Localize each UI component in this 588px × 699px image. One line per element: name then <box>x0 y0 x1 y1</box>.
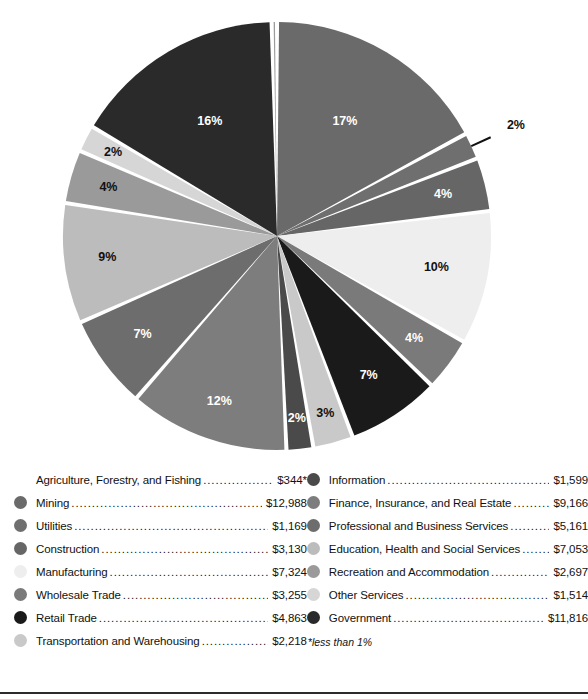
legend-item-label: Construction <box>36 543 99 555</box>
legend-leader-dots <box>110 565 269 578</box>
legend-item-label: Other Services <box>329 589 404 601</box>
pie-slice-percent-label: 4% <box>99 180 117 194</box>
legend-item[interactable]: Finance, Insurance, and Real Estate$9,16… <box>307 491 588 514</box>
pie-slice-percent-label: 2% <box>507 118 525 132</box>
legend-item-value: $4,863 <box>270 612 307 624</box>
legend-leader-dots <box>522 542 549 555</box>
pie-slice-percent-label: 7% <box>360 368 378 382</box>
legend-item-label: Finance, Insurance, and Real Estate <box>329 497 512 509</box>
legend-item-label: Retail Trade <box>36 612 97 624</box>
legend-item-value: $3,255 <box>270 589 307 601</box>
legend-item-value: $5,161 <box>551 520 588 532</box>
legend-leader-dots <box>203 473 273 486</box>
legend-leader-dots <box>71 496 262 509</box>
legend-item-label: Transportation and Warehousing <box>36 635 200 647</box>
legend-item-label: Agriculture, Forestry, and Fishing <box>36 474 201 486</box>
legend-swatch-icon <box>14 588 27 601</box>
legend-footnote: *less than 1% <box>308 636 588 648</box>
pie-slice-percent-label: 7% <box>134 327 152 341</box>
legend-item[interactable]: Construction$3,130 <box>14 537 307 560</box>
legend-item[interactable]: Other Services$1,514 <box>307 583 588 606</box>
legend-item-value: $9,166 <box>551 497 588 509</box>
legend-swatch-icon <box>307 611 320 624</box>
pie-slice-percent-label: 17% <box>332 114 357 128</box>
legend-swatch-icon <box>307 473 320 486</box>
legend-leader-dots <box>202 634 269 647</box>
pie-slice-percent-label: 10% <box>424 260 449 274</box>
chart-legend: Agriculture, Forestry, and Fishing$344*M… <box>0 468 588 678</box>
legend-item[interactable]: Education, Health and Social Services$7,… <box>307 537 588 560</box>
legend-item-value: $2,697 <box>551 566 588 578</box>
legend-item-label: Mining <box>36 497 69 509</box>
legend-item-value: $11,816 <box>546 612 588 624</box>
pie-slice-percent-label: 4% <box>434 187 452 201</box>
pie-slice-percent-label: 16% <box>197 114 222 128</box>
legend-swatch-icon <box>307 542 320 555</box>
legend-swatch-icon <box>307 588 320 601</box>
pie-slice-percent-label: 2% <box>104 145 122 159</box>
pie-slice-percent-label: 9% <box>98 250 116 264</box>
legend-leader-dots <box>491 565 549 578</box>
legend-leader-dots <box>387 473 549 486</box>
legend-swatch-icon <box>14 473 27 486</box>
legend-leader-dots <box>393 611 544 624</box>
pie-slice-percent-label: 12% <box>207 394 232 408</box>
legend-swatch-icon <box>307 496 320 509</box>
legend-item-label: Utilities <box>36 520 72 532</box>
legend-swatch-icon <box>14 565 27 578</box>
legend-item[interactable]: Transportation and Warehousing$2,218 <box>14 629 307 652</box>
legend-item-label: Education, Health and Social Services <box>329 543 520 555</box>
pie-chart-svg: 17%2%4%10%4%7%3%2%12%7%9%4%2%16% <box>0 0 588 460</box>
legend-swatch-icon <box>307 519 320 532</box>
legend-item[interactable]: Utilities$1,169 <box>14 514 307 537</box>
legend-column-left: Agriculture, Forestry, and Fishing$344*M… <box>0 468 307 678</box>
legend-leader-dots <box>513 496 549 509</box>
legend-swatch-icon <box>307 565 320 578</box>
legend-leader-dots <box>99 611 268 624</box>
legend-item[interactable]: Information$1,599 <box>307 468 588 491</box>
legend-leader-dots <box>101 542 268 555</box>
legend-item-label: Manufacturing <box>36 566 108 578</box>
slice-leader-line <box>471 137 490 146</box>
legend-item[interactable]: Recreation and Accommodation$2,697 <box>307 560 588 583</box>
legend-item[interactable]: Wholesale Trade$3,255 <box>14 583 307 606</box>
pie-slice-percent-label: 4% <box>405 331 423 345</box>
legend-item[interactable]: Retail Trade$4,863 <box>14 606 307 629</box>
legend-item[interactable]: Agriculture, Forestry, and Fishing$344* <box>14 468 307 491</box>
legend-item-value: $1,514 <box>551 589 588 601</box>
legend-item-value: $12,988 <box>264 497 307 509</box>
legend-item-value: $344* <box>275 474 307 486</box>
legend-item-label: Information <box>329 474 385 486</box>
legend-item[interactable]: Government$11,816 <box>307 606 588 629</box>
pie-chart-figure: 17%2%4%10%4%7%3%2%12%7%9%4%2%16% <box>0 0 588 460</box>
legend-item-label: Professional and Business Services <box>329 520 508 532</box>
legend-item-label: Wholesale Trade <box>36 589 121 601</box>
legend-swatch-icon <box>14 519 27 532</box>
legend-item-label: Recreation and Accommodation <box>329 566 489 578</box>
legend-column-right: Information$1,599Finance, Insurance, and… <box>307 468 588 678</box>
legend-leader-dots <box>510 519 549 532</box>
pie-chart-page: 17%2%4%10%4%7%3%2%12%7%9%4%2%16% Agricul… <box>0 0 588 699</box>
legend-item-label: Government <box>329 612 391 624</box>
legend-leader-dots <box>406 588 550 601</box>
legend-leader-dots <box>74 519 268 532</box>
legend-swatch-icon <box>14 611 27 624</box>
legend-item-value: $1,599 <box>551 474 588 486</box>
pie-slice-percent-label: 3% <box>316 406 334 420</box>
legend-swatch-icon <box>14 634 27 647</box>
legend-swatch-icon <box>14 496 27 509</box>
bottom-divider <box>0 692 588 694</box>
legend-item-value: $7,053 <box>551 543 588 555</box>
legend-item-value: $3,130 <box>270 543 307 555</box>
legend-item[interactable]: Manufacturing$7,324 <box>14 560 307 583</box>
legend-item[interactable]: Professional and Business Services$5,161 <box>307 514 588 537</box>
legend-item-value: $1,169 <box>270 520 307 532</box>
legend-item-value: $7,324 <box>270 566 307 578</box>
legend-leader-dots <box>123 588 268 601</box>
legend-item[interactable]: Mining$12,988 <box>14 491 307 514</box>
legend-swatch-icon <box>14 542 27 555</box>
legend-item-value: $2,218 <box>270 635 307 647</box>
pie-slice-percent-label: 2% <box>288 411 306 425</box>
